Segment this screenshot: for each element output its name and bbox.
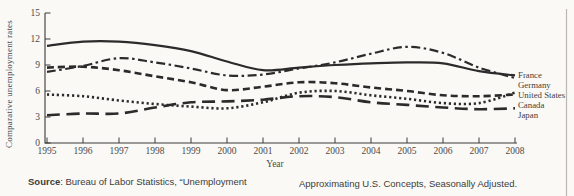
legend-label-canada: Canada	[518, 100, 544, 110]
x-tick-label: 2007	[470, 146, 489, 156]
source-footnote: Source: Bureau of Labor Statistics, “Une…	[28, 176, 247, 187]
footnote-continuation: Approximating U.S. Concepts, Seasonally …	[299, 178, 517, 189]
legend-label-france: France	[518, 70, 542, 80]
series-line-japan	[47, 96, 515, 115]
x-tick-label: 2004	[362, 146, 381, 156]
y-tick-label: 3	[35, 112, 40, 122]
series-line-united-states	[47, 91, 515, 109]
x-tick-label: 1996	[74, 146, 93, 156]
y-axis-title: Comparative unemployment rates	[4, 20, 14, 148]
x-tick-label: 2006	[434, 146, 453, 156]
x-tick-label: 2003	[326, 146, 345, 156]
legend-label-japan: Japan	[518, 110, 539, 120]
x-axis-title: Year	[266, 159, 284, 169]
x-tick-label: 1995	[38, 146, 57, 156]
x-tick-label: 1998	[146, 146, 165, 156]
x-tick-label: 2008	[506, 146, 525, 156]
x-tick-label: 2000	[218, 146, 237, 156]
series-line-germany	[47, 47, 515, 78]
y-tick-label: 12	[31, 34, 41, 44]
y-tick-label: 15	[31, 8, 41, 18]
x-tick-label: 1997	[110, 146, 129, 156]
legend-label-germany: Germany	[518, 80, 551, 90]
x-tick-label: 2001	[254, 146, 273, 156]
x-tick-label: 2005	[398, 146, 417, 156]
source-text: : Bureau of Labor Statistics, “Unemploym…	[60, 176, 246, 187]
x-tick-label: 1999	[182, 146, 201, 156]
unemployment-line-chart: 0369121519951996199719981999200020012002…	[0, 0, 574, 196]
unemployment-rates-figure: 0369121519951996199719981999200020012002…	[0, 0, 574, 196]
series-line-canada	[47, 67, 515, 97]
y-tick-label: 6	[35, 86, 40, 96]
x-tick-label: 2002	[290, 146, 309, 156]
legend-label-united-states: United States	[518, 90, 566, 100]
axes	[45, 13, 517, 143]
y-tick-label: 9	[35, 60, 40, 70]
source-label: Source	[28, 176, 60, 187]
